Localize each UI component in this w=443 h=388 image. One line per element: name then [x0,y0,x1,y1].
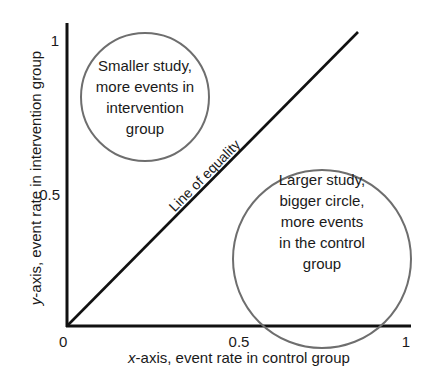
svg-text:Smaller study,: Smaller study, [98,57,192,74]
svg-text:intervention: intervention [106,99,184,116]
x-axis-label: x-axis, event rate in control group [127,349,350,366]
diagram-canvas: Line of equality Smaller study, more eve… [0,0,443,388]
line-of-equality-label: Line of equality [166,136,244,214]
svg-text:more events: more events [281,213,364,230]
y-axis-label: y-axis, event rate in intervention group [27,51,44,306]
x-tick-1: 1 [402,333,410,350]
x-tick-0.5: 0.5 [229,333,250,350]
svg-text:more events in: more events in [96,78,194,95]
x-tick-0: 0 [59,333,67,350]
svg-text:in the control: in the control [279,234,365,251]
y-tick-1: 1 [51,32,59,49]
svg-text:bigger circle,: bigger circle, [279,192,364,209]
svg-text:Larger study,: Larger study, [279,171,365,188]
small-study-circle [81,33,209,161]
large-study-text: Larger study, bigger circle, more events… [279,171,365,272]
svg-text:group: group [303,255,341,272]
svg-text:group: group [126,120,164,137]
small-study-text: Smaller study, more events in interventi… [96,57,194,137]
